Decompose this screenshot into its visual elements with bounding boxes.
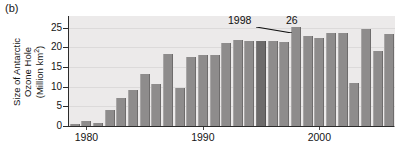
bar [244,41,254,126]
bar [186,57,196,126]
bar [303,36,313,126]
bar [163,54,173,126]
bar [116,98,126,126]
y-axis-title: Size of Antarctic Ozone Hole (Million km… [0,14,34,130]
y-axis-tick [63,28,68,29]
y-axis-tick-label: 5 [36,101,62,111]
bar [81,121,91,126]
bar [105,110,115,127]
bar [268,41,278,126]
y-axis-tick-label: 25 [36,23,62,33]
x-axis-tick-label: 1990 [191,131,214,143]
bar [256,41,266,126]
x-axis-tick-label: 2000 [308,131,331,143]
y-axis-tick-label: 20 [36,42,62,52]
y-axis-tick-label: 0 [36,121,62,131]
bar [373,51,383,126]
x-axis-tick [86,127,87,130]
bar [210,55,220,127]
y-axis-tick [63,106,68,107]
bar [349,83,359,126]
bar [384,34,394,126]
gridline [69,28,395,29]
bar [338,33,348,127]
bar [291,27,301,126]
bar [175,88,185,126]
y-axis-tick-labels: 0510152025 [32,0,62,150]
panel-label: (b) [5,2,18,14]
bar [361,29,371,126]
y-axis-tick [63,47,68,48]
annotation-year-label: 1998 [228,14,251,26]
y-axis-tick [63,126,68,127]
bar [198,55,208,127]
bar [128,90,138,126]
annotation-value-label: 26 [286,14,298,26]
bar [151,84,161,126]
y-axis-tick [63,67,68,68]
figure-panel-b: (b) Size of Antarctic Ozone Hole (Millio… [0,0,399,150]
x-axis-tick [203,127,204,130]
bar [140,74,150,126]
x-axis-tick [319,127,320,130]
x-axis-tick-label: 1980 [75,131,98,143]
y-axis-tick [63,87,68,88]
bar [233,40,243,126]
y-axis-tick-label: 10 [36,82,62,92]
plot-area [69,16,395,126]
bar [221,43,231,126]
plot-bottom-spine [68,126,395,127]
bar [93,123,103,126]
bar [314,38,324,126]
y-axis-tick-label: 15 [36,62,62,72]
bar [70,124,80,126]
bar [279,42,289,126]
bar [326,33,336,127]
